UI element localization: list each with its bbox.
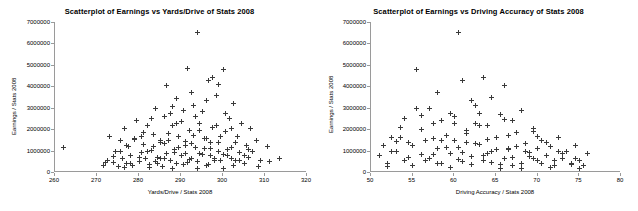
scatter-point — [510, 163, 515, 168]
scatter-point — [519, 108, 524, 113]
scatter-point — [531, 156, 536, 161]
scatter-point — [200, 109, 205, 114]
x-axis-tick-label: 70 — [533, 177, 540, 183]
scatter-point — [210, 75, 215, 80]
scatter-point — [410, 143, 415, 148]
scatter-point — [187, 157, 192, 162]
x-axis-tick-mark — [620, 173, 621, 176]
y-axis-tick-label: 6000000 — [18, 40, 50, 46]
x-axis-tick-mark — [453, 173, 454, 176]
scatter-point — [481, 158, 486, 163]
y-axis-tick-label: 4000000 — [18, 83, 50, 89]
scatter-point — [485, 123, 490, 128]
scatter-point — [183, 143, 188, 148]
scatter-point — [523, 141, 528, 146]
scatter-point — [473, 121, 478, 126]
scatter-point — [162, 141, 167, 146]
x-axis-tick-mark — [180, 173, 181, 176]
x-axis-tick-label: 60 — [450, 177, 457, 183]
scatter-point — [456, 30, 461, 35]
scatter-point — [481, 75, 486, 80]
scatter-point — [248, 126, 253, 131]
y-axis-tick-label: 2000000 — [18, 126, 50, 132]
scatter-point — [223, 111, 228, 116]
x-axis-tick-label: 80 — [617, 177, 624, 183]
scatter-point — [206, 162, 211, 167]
x-axis-tick-label: 75 — [575, 177, 582, 183]
scatter-point — [577, 166, 582, 171]
scatter-point — [227, 116, 232, 121]
scatter-point — [214, 123, 219, 128]
scatter-point — [431, 121, 436, 126]
scatter-point — [502, 156, 507, 161]
y-axis-tick-label: 3000000 — [18, 105, 50, 111]
scatter-point — [439, 118, 444, 123]
scatter-point — [506, 133, 511, 138]
scatter-point — [439, 138, 444, 143]
scatter-point — [498, 112, 503, 117]
scatter-point — [398, 125, 403, 130]
x-axis-tick-label: 300 — [217, 177, 227, 183]
x-axis-tick-mark — [306, 173, 307, 176]
scatter-point — [166, 131, 171, 136]
scatter-point — [118, 149, 123, 154]
scatter-point — [189, 141, 194, 146]
scatter-point — [469, 98, 474, 103]
y-axis-tick-mark — [51, 43, 54, 44]
scatterplot-earnings-vs-driving-accuracy: Scatterplot of Earnings vs Driving Accur… — [319, 0, 638, 211]
scatter-point — [535, 146, 540, 151]
scatter-point — [258, 158, 263, 163]
x-axis-tick-mark — [495, 173, 496, 176]
scatter-point — [385, 164, 390, 169]
scatter-point — [473, 141, 478, 146]
scatter-point — [197, 121, 202, 126]
scatter-point — [193, 114, 198, 119]
scatter-point — [552, 158, 557, 163]
x-axis-tick-label: 270 — [91, 177, 101, 183]
scatter-point — [556, 149, 561, 154]
scatter-point — [535, 134, 540, 139]
scatter-point — [514, 144, 519, 149]
scatter-point — [147, 165, 152, 170]
scatter-point — [464, 140, 469, 145]
scatter-point — [181, 108, 186, 113]
scatter-point — [539, 161, 544, 166]
scatter-point — [237, 158, 242, 163]
y-axis-tick-mark — [367, 22, 370, 23]
scatter-point — [254, 138, 259, 143]
scatter-point — [239, 121, 244, 126]
scatter-point — [122, 126, 127, 131]
scatter-point — [61, 145, 66, 150]
scatter-point — [128, 161, 133, 166]
scatter-point — [485, 151, 490, 156]
scatter-point — [162, 114, 167, 119]
scatter-point — [381, 143, 386, 148]
scatter-point — [410, 163, 415, 168]
scatter-point — [585, 151, 590, 156]
y-axis-tick-label: 5000000 — [334, 62, 366, 68]
scatter-point — [235, 134, 240, 139]
scatter-point — [174, 96, 179, 101]
y-axis-label-left: Earnings / Stats 2008 — [11, 78, 17, 135]
scatter-point — [151, 144, 156, 149]
scatter-point — [456, 145, 461, 150]
scatter-point — [176, 145, 181, 150]
scatter-point — [183, 151, 188, 156]
scatter-point — [103, 160, 108, 165]
scatter-point — [141, 142, 146, 147]
y-axis-tick-mark — [51, 108, 54, 109]
scatter-point — [414, 106, 419, 111]
scatter-point — [158, 156, 163, 161]
scatter-point — [473, 103, 478, 108]
scatter-point — [452, 138, 457, 143]
scatter-point — [448, 111, 453, 116]
scatter-point — [573, 143, 578, 148]
scatter-point — [435, 146, 440, 151]
scatter-point — [122, 165, 127, 170]
scatter-point — [118, 138, 123, 143]
scatter-point — [431, 136, 436, 141]
x-axis-tick-label: 310 — [259, 177, 269, 183]
x-axis-tick-mark — [578, 173, 579, 176]
scatter-point — [151, 132, 156, 137]
scatter-point — [556, 135, 561, 140]
